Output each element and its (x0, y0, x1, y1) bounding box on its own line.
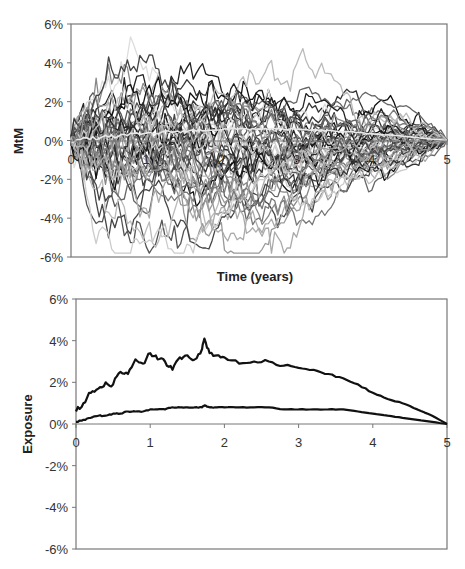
exposure-y-tick-label: 4% (49, 334, 68, 349)
exposure-y-tick-label: -6% (45, 542, 69, 557)
exposure-y-tick-label: -4% (45, 500, 69, 515)
exposure-chart: 6%4%2%0%-2%-4%-6% 012345 Exposure (20, 292, 451, 557)
exposure-x-axis: 012345 (72, 424, 450, 450)
mtm-y-tick-label: 2% (44, 95, 63, 110)
exposure-x-tick-label: 1 (147, 435, 154, 450)
mtm-y-tick-label: -6% (40, 250, 64, 265)
mtm-x-tick-label: 4 (368, 152, 375, 167)
exposure-y-tick-label: 6% (49, 292, 68, 307)
mtm-y-tick-label: 0% (44, 134, 63, 149)
mtm-x-axis-title: Time (years) (217, 269, 293, 284)
mtm-y-axis-title: MtM (11, 128, 26, 154)
mtm-simulation-paths (71, 37, 447, 253)
exposure-x-tick-label: 4 (369, 435, 376, 450)
exposure-y-axis-title: Exposure (20, 394, 35, 453)
mtm-x-tick-label: 0 (67, 152, 74, 167)
exposure-x-tick-label: 5 (443, 435, 450, 450)
expected-exposure-line (76, 405, 447, 424)
exposure-y-tick-label: -2% (45, 459, 69, 474)
mtm-y-tick-label: 6% (44, 17, 63, 32)
mtm-y-tick-label: -2% (40, 172, 64, 187)
exposure-x-tick-label: 0 (72, 435, 79, 450)
mtm-x-tick-label: 1 (143, 152, 150, 167)
mtm-x-tick-label: 2 (218, 152, 225, 167)
exposure-y-tick-label: 0% (49, 417, 68, 432)
exposure-x-tick-label: 2 (221, 435, 228, 450)
exposure-x-tick-label: 3 (295, 435, 302, 450)
mtm-y-axis: 6%4%2%0%-2%-4%-6% (40, 17, 71, 265)
mtm-chart: 6%4%2%0%-2%-4%-6% 012345 MtM Time (years… (11, 17, 451, 284)
mtm-y-tick-label: -4% (40, 211, 64, 226)
exposure-lines (76, 339, 447, 424)
mtm-y-tick-label: 4% (44, 56, 63, 71)
mtm-x-tick-label: 5 (443, 152, 450, 167)
mtm-x-tick-label: 3 (293, 152, 300, 167)
exposure-y-axis: 6%4%2%0%-2%-4%-6% (45, 292, 76, 557)
exposure-y-tick-label: 2% (49, 375, 68, 390)
chart-figure: 6%4%2%0%-2%-4%-6% 012345 MtM Time (years… (0, 0, 465, 569)
